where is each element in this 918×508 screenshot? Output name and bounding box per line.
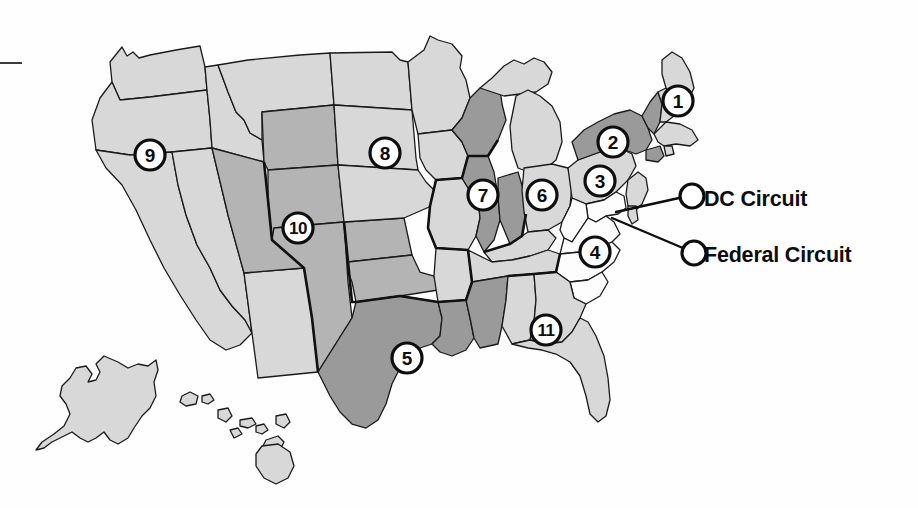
dc-circuit-legend-label: DC Circuit xyxy=(704,187,807,212)
alaska-hawaii-inset xyxy=(36,356,294,484)
circuit-marker-5-label: 5 xyxy=(402,348,413,369)
circuit-marker-6-label: 6 xyxy=(537,185,548,206)
circuit-marker-3-label: 3 xyxy=(595,171,606,192)
circuit-marker-1: 1 xyxy=(663,86,693,116)
circuit-marker-9: 9 xyxy=(135,140,165,170)
federal-leader-line xyxy=(612,218,690,251)
circuit-marker-3: 3 xyxy=(585,166,615,196)
circuit-marker-4: 4 xyxy=(580,237,610,267)
circuit-map-figure: 1 2 3 4 5 6 7 xyxy=(0,0,918,508)
circuit-marker-7-label: 7 xyxy=(478,185,489,206)
federal-circuit-legend-marker xyxy=(682,241,706,265)
circuit-marker-2-label: 2 xyxy=(608,132,619,153)
circuit-marker-9-label: 9 xyxy=(145,145,156,166)
circuit-marker-8: 8 xyxy=(370,138,400,168)
circuit-marker-11-label: 11 xyxy=(538,321,555,340)
federal-circuit-legend-label: Federal Circuit xyxy=(704,243,852,268)
circuit-marker-1-label: 1 xyxy=(673,91,684,112)
circuit-marker-10-label: 10 xyxy=(289,219,307,238)
circuit-marker-7: 7 xyxy=(468,180,498,210)
circuit-marker-11: 11 xyxy=(531,315,561,345)
circuit-marker-5: 5 xyxy=(392,343,422,373)
circuit-marker-2: 2 xyxy=(598,127,628,157)
circuit-marker-6: 6 xyxy=(527,180,557,210)
circuit-marker-4-label: 4 xyxy=(590,242,601,263)
circuit-marker-8-label: 8 xyxy=(380,143,391,164)
dc-circuit-legend-marker xyxy=(680,184,704,208)
circuit-marker-10: 10 xyxy=(283,213,313,243)
